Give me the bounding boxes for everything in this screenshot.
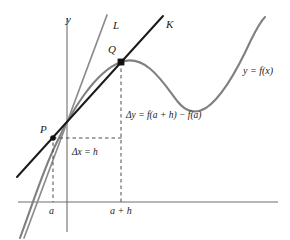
x-tick-label-a: a [49, 206, 54, 216]
axes-group [18, 18, 278, 232]
function-label: y = f(x) [243, 66, 273, 76]
function-curve [20, 17, 265, 238]
figure-container: y L K Q P y = f(x) Δy = f(a + h) − f(a) … [0, 0, 290, 240]
point-p-label: P [40, 124, 47, 135]
tangent-line-label: L [113, 20, 119, 31]
point-p-marker [50, 135, 56, 141]
tangent-line-L [24, 15, 107, 238]
point-q-marker [118, 59, 125, 66]
x-tick-label-a-plus-h: a + h [110, 206, 132, 216]
y-axis-label: y [66, 14, 71, 25]
delta-y-label: Δy = f(a + h) − f(a) [126, 111, 201, 121]
secant-line-label: K [166, 19, 173, 30]
delta-x-label: Δx = h [72, 148, 98, 158]
point-q-label: Q [108, 44, 116, 55]
